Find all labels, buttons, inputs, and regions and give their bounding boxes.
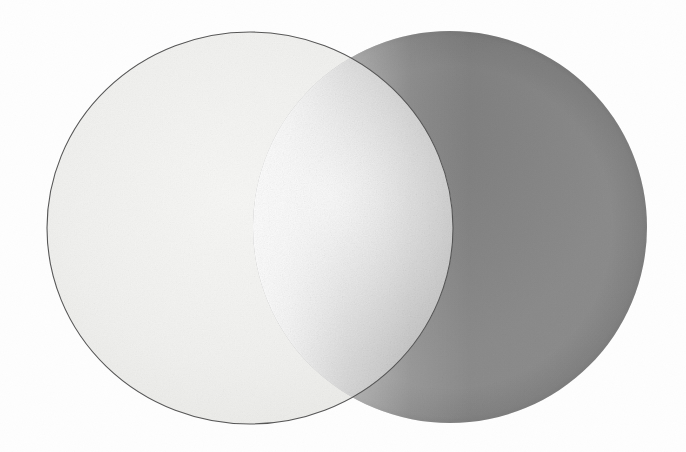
paper-texture: [0, 0, 686, 452]
two-disc-diagram: Two overlapping discs Grayscale scanned …: [0, 0, 686, 452]
figure-canvas: Two overlapping discs Grayscale scanned …: [0, 0, 686, 452]
